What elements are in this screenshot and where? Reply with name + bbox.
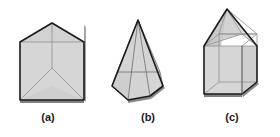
caption-label-a: (a) (28, 111, 68, 123)
solid-hexagonal-pyramid (112, 20, 165, 103)
cube-front-face (204, 46, 242, 94)
pyramid-base-face (112, 72, 163, 100)
pyramid-face-back (117, 20, 160, 72)
caption-label-c: (c) (212, 111, 252, 123)
figure-container: (a) (b) (c) (0, 0, 280, 137)
caption-label-b: (b) (128, 111, 168, 123)
solid-cube-with-pyramid (204, 9, 259, 97)
solid-triangular-prism (20, 23, 86, 103)
